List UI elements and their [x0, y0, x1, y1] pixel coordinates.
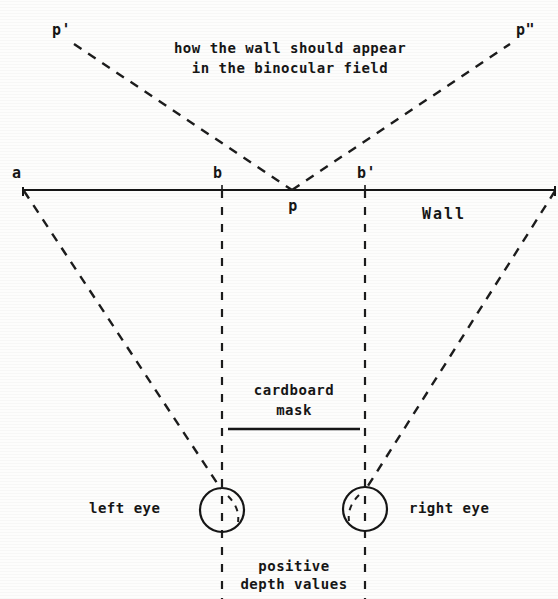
left-eye-inner-arc: [228, 496, 238, 522]
label-b-prime: b': [357, 165, 376, 183]
label-p-double-prime: p": [516, 22, 535, 40]
label-depth-values: depth values: [240, 576, 347, 593]
sight-line-right-eye-to-wall-end: [366, 191, 555, 489]
caption-line-2: in the binocular field: [192, 60, 388, 77]
label-cardboard: cardboard: [254, 382, 334, 399]
label-wall: Wall: [422, 206, 466, 224]
sight-line-left-eye-to-a: [24, 191, 221, 489]
eyes-group: [200, 487, 387, 532]
label-a: a: [12, 165, 22, 183]
figure-page: { "figure": { "title_note": "how the wal…: [0, 0, 558, 599]
right-eye-inner-arc: [349, 495, 359, 521]
label-p: p: [288, 198, 298, 216]
label-b: b: [213, 165, 223, 183]
label-right-eye: right eye: [409, 500, 489, 517]
sight-lines: [24, 191, 555, 489]
label-left-eye: left eye: [89, 500, 160, 517]
label-positive: positive: [258, 558, 329, 575]
caption-line-1: how the wall should appear: [174, 40, 406, 57]
label-mask: mask: [276, 402, 312, 419]
label-p-prime: p': [52, 22, 71, 40]
